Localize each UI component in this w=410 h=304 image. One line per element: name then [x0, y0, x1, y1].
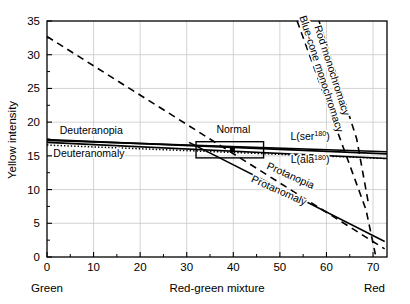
normal-range-box [196, 142, 264, 158]
x-axis-title: Red-green mixture [169, 282, 264, 294]
x-axis-left-end-label: Green [31, 282, 63, 294]
normal-label: Normal [216, 123, 250, 135]
x-tick-label: 50 [273, 261, 286, 273]
x-tick-label: 40 [227, 261, 240, 273]
series-label: Deuteranomaly [53, 147, 125, 159]
x-tick-label: 0 [44, 261, 50, 273]
x-tick-label: 60 [320, 261, 333, 273]
normal-data-marker [230, 147, 235, 152]
y-tick-label: 10 [27, 184, 40, 196]
y-tick-label: 20 [27, 116, 40, 128]
x-axis-right-end-label: Red [364, 282, 385, 294]
y-tick-label: 35 [27, 15, 40, 27]
y-tick-label: 25 [27, 82, 40, 94]
x-tick-label: 20 [134, 261, 147, 273]
y-tick-label: 0 [34, 251, 40, 263]
x-tick-label: 10 [87, 261, 100, 273]
y-tick-label: 15 [27, 150, 40, 162]
x-tick-label: 30 [180, 261, 193, 273]
y-axis-title: Yellow intensity [6, 101, 18, 179]
x-tick-label: 70 [367, 261, 380, 273]
y-tick-label: 5 [34, 217, 40, 229]
series-label: Deuteranopia [60, 124, 123, 136]
yellow-intensity-vs-red-green-mixture-chart: 01020304050607005101520253035 Rod monoch… [0, 0, 410, 304]
y-tick-label: 30 [27, 49, 40, 61]
chart-figure: 01020304050607005101520253035 Rod monoch… [0, 0, 410, 304]
